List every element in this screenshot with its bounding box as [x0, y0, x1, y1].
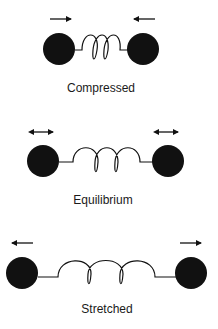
mass-left [27, 145, 59, 177]
spring-diagram: Compressed Equilibrium Stretched [0, 0, 218, 329]
spring-coil [59, 148, 153, 172]
mass-left [6, 257, 38, 289]
mass-right [152, 145, 184, 177]
spring-coil [38, 261, 176, 284]
state-label: Equilibrium [73, 193, 132, 207]
state-label: Compressed [67, 81, 135, 95]
state-label: Stretched [81, 302, 132, 316]
mass-right [175, 257, 207, 289]
state-equilibrium: Equilibrium [27, 132, 184, 207]
state-stretched: Stretched [6, 243, 207, 316]
mass-right [127, 33, 159, 65]
mass-left [43, 33, 75, 65]
spring-coil [75, 35, 128, 59]
state-compressed: Compressed [43, 19, 159, 95]
